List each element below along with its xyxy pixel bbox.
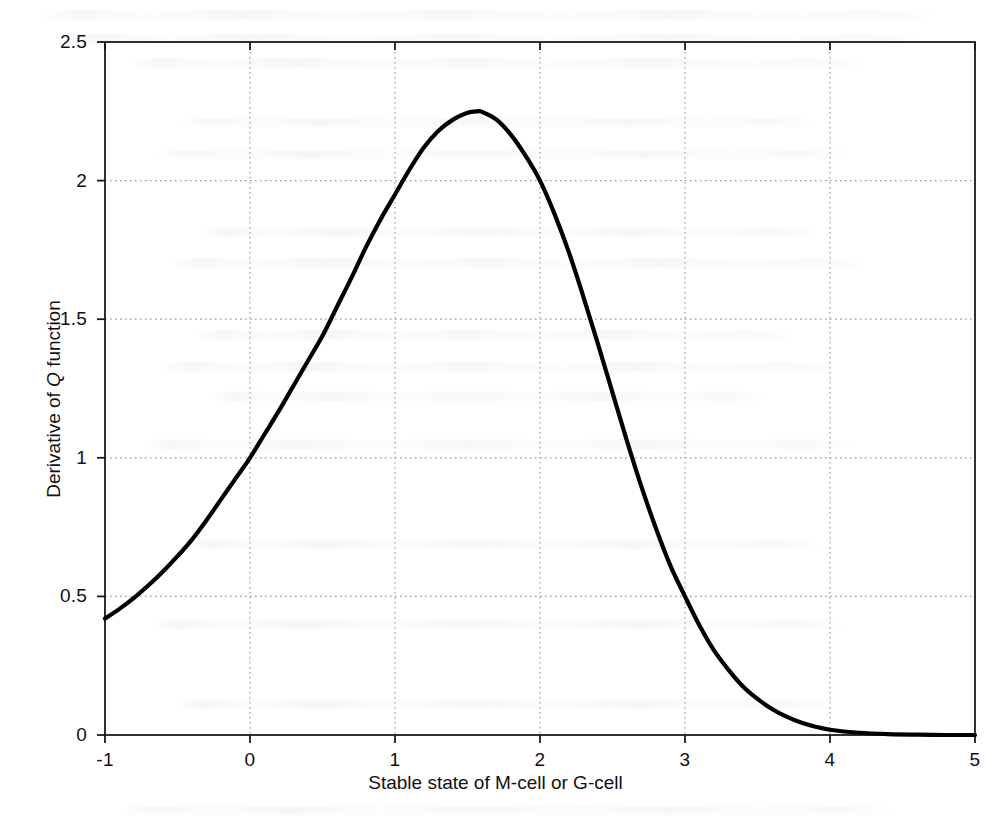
x-tick-label: 1	[390, 749, 401, 771]
y-axis-title-prefix: Derivative of	[43, 387, 64, 498]
y-tick-marks	[97, 42, 105, 735]
y-axis-title: Derivative of Q function	[43, 89, 65, 709]
x-axis-title: Stable state of M-cell or G-cell	[0, 772, 991, 794]
y-tick-label: 2.5	[0, 31, 87, 53]
chart-figure: 00.511.522.5 -1012345 Derivative of Q fu…	[0, 0, 991, 826]
x-tick-label: 3	[680, 749, 691, 771]
x-tick-label: -1	[96, 749, 113, 771]
x-tick-label: 2	[535, 749, 546, 771]
plot-canvas	[0, 0, 991, 826]
y-axis-title-suffix: function	[43, 300, 64, 372]
x-gridlines	[250, 42, 830, 735]
x-tick-label: 0	[245, 749, 256, 771]
y-axis-title-symbol: Q	[43, 372, 64, 387]
y-tick-label: 0	[0, 724, 87, 746]
x-tick-label: 4	[825, 749, 836, 771]
x-tick-label: 5	[970, 749, 981, 771]
